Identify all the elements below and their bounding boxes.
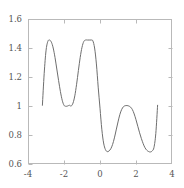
x-axis-tick-label: 2 xyxy=(133,170,138,179)
x-axis-tick-label: -4 xyxy=(24,170,32,179)
y-axis-tick-label: 1.2 xyxy=(2,73,22,82)
y-axis-tick-label: 1 xyxy=(2,102,22,111)
y-axis-tick-label: 1.4 xyxy=(2,44,22,53)
chart-figure: 0.60.811.21.41.6 -4-2024 xyxy=(0,0,184,188)
x-axis-tick-label: 0 xyxy=(97,170,102,179)
x-axis-tick-label: 4 xyxy=(169,170,174,179)
line-chart-plot xyxy=(0,0,184,188)
plot-area-border xyxy=(29,20,172,164)
y-axis-tick-label: 1.6 xyxy=(2,15,22,24)
x-axis-tick-label: -2 xyxy=(60,170,68,179)
y-axis-tick-label: 0.6 xyxy=(2,160,22,169)
y-axis-tick-label: 0.8 xyxy=(2,131,22,140)
plot-frame xyxy=(29,20,172,164)
